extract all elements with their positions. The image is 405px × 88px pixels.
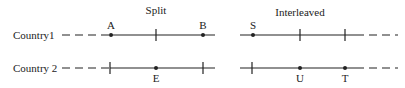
trade-diagram: Split Interleaved Country1 Country 2 A B…: [0, 0, 405, 88]
interleaved-country1-line: [240, 29, 398, 41]
label-t: T: [342, 72, 349, 84]
label-a: A: [107, 19, 115, 31]
split-title: Split: [146, 4, 167, 16]
label-u: U: [296, 72, 304, 84]
interleaved-country2-line: [240, 62, 398, 74]
point-b: [201, 33, 205, 37]
row-label-country1: Country1: [13, 29, 55, 41]
point-e: [154, 66, 158, 70]
row-label-country2: Country 2: [13, 62, 57, 74]
label-e: E: [153, 72, 160, 84]
split-country2-line: [62, 62, 215, 74]
point-u: [298, 66, 302, 70]
label-b: B: [199, 19, 206, 31]
point-s: [251, 33, 255, 37]
split-country1-line: [62, 29, 215, 41]
point-t: [343, 66, 347, 70]
label-s: S: [250, 19, 256, 31]
point-a: [109, 33, 113, 37]
interleaved-title: Interleaved: [275, 6, 325, 18]
